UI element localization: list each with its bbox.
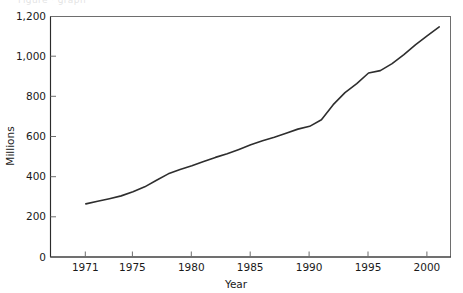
y-tick-label-600: 600	[26, 130, 46, 142]
y-tick-label-1000: 1,000	[16, 50, 46, 62]
y-tick-label-400: 400	[26, 170, 46, 182]
data-line-millions	[86, 27, 439, 204]
x-tick-label-1980: 1980	[178, 261, 205, 273]
y-tick-label-200: 200	[26, 210, 46, 222]
cropped-caption-remnant: Figure · graph	[0, 0, 463, 9]
y-tick-label-0: 0	[39, 251, 46, 263]
y-axis-ticks	[51, 17, 57, 258]
cropped-caption-text: Figure · graph	[18, 0, 86, 5]
line-chart: 0 200 400 600 800 1,000 1,200 1971 1975 …	[0, 0, 463, 293]
y-axis-title: Millions	[4, 126, 16, 165]
x-tick-label-1975: 1975	[119, 261, 146, 273]
plot-frame	[51, 17, 451, 258]
y-tick-label-800: 800	[26, 90, 46, 102]
x-tick-label-2000: 2000	[414, 261, 441, 273]
chart-figure: Figure · graph 0 200 400 600 800 1,000 1…	[0, 0, 463, 293]
x-tick-label-1985: 1985	[237, 261, 264, 273]
x-tick-label-1995: 1995	[355, 261, 382, 273]
y-axis-tick-labels: 0 200 400 600 800 1,000 1,200	[16, 10, 46, 263]
x-tick-label-1990: 1990	[296, 261, 323, 273]
x-axis-tick-labels: 1971 1975 1980 1985 1990 1995 2000	[72, 261, 440, 273]
x-tick-label-1971: 1971	[72, 261, 99, 273]
x-axis-title: Year	[224, 278, 248, 290]
x-axis-ticks	[85, 252, 427, 258]
y-tick-label-1200: 1,200	[16, 10, 46, 22]
